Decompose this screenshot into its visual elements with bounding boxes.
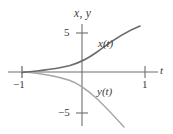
- tick-label-y-negative: −5: [58, 107, 70, 118]
- horizontal-axis-label: t: [160, 65, 163, 76]
- vertical-axis-label: x, y: [74, 8, 91, 20]
- tick-label-y-positive: 5: [64, 27, 70, 38]
- curve-label-x-of-t: x(t): [98, 38, 113, 49]
- tick-label-x-negative: −1: [13, 79, 25, 90]
- curve-label-y-of-t: y(t): [97, 86, 112, 97]
- plot-canvas: [0, 0, 173, 134]
- curve-y-of-t: [22, 72, 124, 127]
- tick-label-x-positive: 1: [142, 79, 148, 90]
- plot-figure: x, y t x(t) y(t) 5 −5 −1 1: [0, 0, 173, 134]
